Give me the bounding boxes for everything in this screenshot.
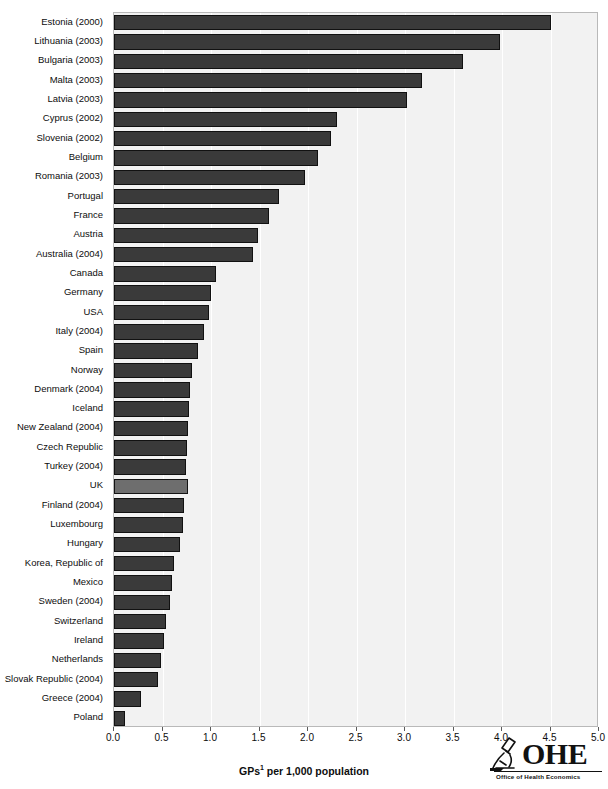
y-axis-tick-label: Luxembourg — [50, 519, 108, 529]
bar-row — [114, 34, 597, 49]
bar-row — [114, 556, 597, 571]
x-axis-tick-label: 2.0 — [287, 733, 327, 743]
y-axis-tick-label: Romania (2003) — [35, 171, 108, 181]
y-axis-tick-label: Germany — [64, 287, 108, 297]
bar-row — [114, 247, 597, 262]
plot-area — [113, 12, 598, 727]
y-axis-tick-label: Iceland — [72, 403, 108, 413]
bar-row — [114, 228, 597, 243]
bar — [114, 54, 463, 69]
x-axis-tick-mark — [162, 727, 163, 731]
y-axis-tick-label: Cyprus (2002) — [43, 113, 108, 123]
bar — [114, 575, 172, 590]
y-axis-tick-label: Spain — [79, 345, 108, 355]
bar-series — [114, 13, 597, 726]
bar — [114, 440, 187, 455]
y-axis-tick-label: Estonia (2000) — [41, 17, 108, 27]
y-axis-tick-label: Ireland — [74, 635, 108, 645]
y-axis-tick-label: Bulgaria (2003) — [38, 55, 108, 65]
bar — [114, 479, 188, 494]
bar-row — [114, 208, 597, 223]
bar — [114, 459, 186, 474]
bar-row — [114, 614, 597, 629]
bar-row — [114, 595, 597, 610]
y-axis-tick-label: Lithuania (2003) — [34, 36, 108, 46]
x-axis-title-main: GPs — [239, 765, 260, 777]
y-axis-tick-label: Korea, Republic of — [25, 558, 108, 568]
bar — [114, 266, 216, 281]
bar — [114, 653, 161, 668]
y-axis-tick-label: Latvia (2003) — [48, 94, 108, 104]
x-axis-tick-label: 0.0 — [93, 733, 133, 743]
bar-row — [114, 131, 597, 146]
bar — [114, 34, 500, 49]
bar — [114, 343, 198, 358]
bar — [114, 228, 258, 243]
y-axis-tick-label: Belgium — [69, 152, 108, 162]
x-axis-tick-mark — [598, 727, 599, 731]
bar — [114, 498, 184, 513]
bar-row — [114, 189, 597, 204]
x-axis-tick-mark — [307, 727, 308, 731]
y-axis-tick-label: Australia (2004) — [36, 249, 108, 259]
bar — [114, 633, 164, 648]
bar — [114, 672, 158, 687]
bar — [114, 614, 166, 629]
bar-row — [114, 54, 597, 69]
y-axis-tick-label: Norway — [71, 365, 108, 375]
bar-row — [114, 401, 597, 416]
bar — [114, 517, 183, 532]
bar — [114, 595, 170, 610]
y-axis-tick-label: New Zealand (2004) — [17, 422, 108, 432]
bar-row — [114, 672, 597, 687]
bar — [114, 691, 141, 706]
x-axis-tick-label: 3.5 — [433, 733, 473, 743]
y-axis-tick-label: Turkey (2004) — [44, 461, 108, 471]
x-axis-title-rest: per 1,000 population — [264, 765, 369, 777]
x-axis-tick-mark — [550, 727, 551, 731]
x-axis-tick-mark — [113, 727, 114, 731]
y-axis-tick-label: USA — [83, 307, 108, 317]
bar-row — [114, 92, 597, 107]
bar-row — [114, 479, 597, 494]
bar — [114, 131, 331, 146]
bar-row — [114, 633, 597, 648]
bar-row — [114, 711, 597, 726]
y-axis-tick-label: Italy (2004) — [55, 326, 108, 336]
bar — [114, 15, 551, 30]
x-axis-tick-mark — [453, 727, 454, 731]
bar — [114, 305, 209, 320]
bar-row — [114, 73, 597, 88]
y-axis-tick-label: Czech Republic — [36, 442, 108, 452]
bar-row — [114, 15, 597, 30]
bar-row — [114, 266, 597, 281]
y-axis-tick-label: Canada — [70, 268, 108, 278]
y-axis-tick-label: Slovenia (2002) — [36, 133, 108, 143]
x-axis-tick-label: 1.5 — [239, 733, 279, 743]
ohe-initials: OHE — [522, 739, 587, 769]
bar — [114, 150, 318, 165]
y-axis-tick-label: Hungary — [67, 538, 108, 548]
bar-row — [114, 343, 597, 358]
bar-row — [114, 498, 597, 513]
y-axis-tick-label: Slovak Republic (2004) — [5, 674, 108, 684]
x-axis-tick-mark — [356, 727, 357, 731]
chart-figure: Estonia (2000)Lithuania (2003)Bulgaria (… — [0, 0, 608, 789]
bar — [114, 73, 422, 88]
bar — [114, 92, 407, 107]
bar — [114, 170, 305, 185]
x-axis-tick-mark — [210, 727, 211, 731]
bar-row — [114, 305, 597, 320]
bar-row — [114, 324, 597, 339]
y-axis-tick-label: Portugal — [68, 191, 108, 201]
y-axis-tick-label: Greece (2004) — [42, 693, 108, 703]
bar-row — [114, 575, 597, 590]
bar — [114, 421, 188, 436]
y-axis-tick-label: Poland — [73, 712, 108, 722]
bar — [114, 537, 180, 552]
y-axis-tick-label: Austria — [73, 229, 108, 239]
y-axis-tick-label: Finland (2004) — [42, 500, 108, 510]
bar-row — [114, 363, 597, 378]
bar — [114, 711, 125, 726]
bar-row — [114, 112, 597, 127]
